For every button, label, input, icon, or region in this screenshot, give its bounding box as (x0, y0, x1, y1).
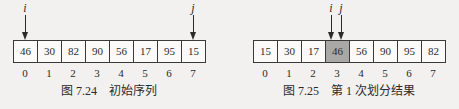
pointer-j-label: j (336, 2, 346, 14)
index-label-0: 0 (253, 66, 277, 80)
array-indices: 0 1 2 3 4 5 6 7 (253, 66, 445, 80)
index-label-5: 5 (373, 66, 397, 80)
array-cell-7: 15 (182, 41, 205, 62)
array-cell-5: 90 (374, 41, 398, 62)
index-label-6: 6 (397, 66, 421, 80)
index-label-5: 5 (133, 66, 157, 80)
figure-caption: 图 7.24 初始序列 (13, 84, 205, 98)
array-cell-3-pivot: 46 (326, 41, 350, 62)
pointer-i-label: i (20, 2, 30, 14)
index-label-0: 0 (13, 66, 37, 80)
array-cell-1: 30 (278, 41, 302, 62)
array-cell-6: 95 (398, 41, 422, 62)
array-cell-3: 90 (86, 41, 110, 62)
array-cells: 46 30 82 90 56 17 95 15 (13, 40, 206, 63)
figure-first-partition-result: i j 15 30 17 46 56 90 95 82 0 1 2 3 4 5 … (253, 0, 445, 109)
index-label-1: 1 (277, 66, 301, 80)
index-label-3: 3 (325, 66, 349, 80)
array-cell-6: 95 (158, 41, 182, 62)
array-cell-1: 30 (38, 41, 62, 62)
index-label-4: 4 (349, 66, 373, 80)
pointer-i-label: i (326, 2, 336, 14)
array-cell-7: 82 (422, 41, 445, 62)
array-cell-4: 56 (350, 41, 374, 62)
index-label-3: 3 (85, 66, 109, 80)
index-label-1: 1 (37, 66, 61, 80)
array-cell-0: 46 (14, 41, 38, 62)
array-indices: 0 1 2 3 4 5 6 7 (13, 66, 205, 80)
array-cells: 15 30 17 46 56 90 95 82 (253, 40, 446, 63)
figure-initial-sequence: i j 46 30 82 90 56 17 95 15 0 1 2 3 4 5 … (13, 0, 205, 109)
arrowhead-icon (190, 32, 196, 40)
pointer-i: i (20, 2, 30, 40)
pointer-j: j (336, 2, 346, 40)
array-cell-0: 15 (254, 41, 278, 62)
index-label-7: 7 (421, 66, 445, 80)
pointer-i: i (326, 2, 336, 40)
arrowhead-icon (338, 32, 344, 40)
arrow-down-icon (193, 15, 194, 33)
index-label-6: 6 (157, 66, 181, 80)
index-label-7: 7 (181, 66, 205, 80)
pointer-j: j (188, 2, 198, 40)
index-label-2: 2 (61, 66, 85, 80)
arrowhead-icon (22, 32, 28, 40)
figure-caption: 图 7.25 第 1 次划分结果 (253, 84, 445, 98)
arrow-down-icon (331, 15, 332, 33)
arrow-down-icon (25, 15, 26, 33)
array-cell-2: 82 (62, 41, 86, 62)
arrow-down-icon (341, 15, 342, 33)
array-cell-5: 17 (134, 41, 158, 62)
array-cell-2: 17 (302, 41, 326, 62)
index-label-2: 2 (301, 66, 325, 80)
index-label-4: 4 (109, 66, 133, 80)
pointer-j-label: j (188, 2, 198, 14)
arrowhead-icon (328, 32, 334, 40)
array-cell-4: 56 (110, 41, 134, 62)
